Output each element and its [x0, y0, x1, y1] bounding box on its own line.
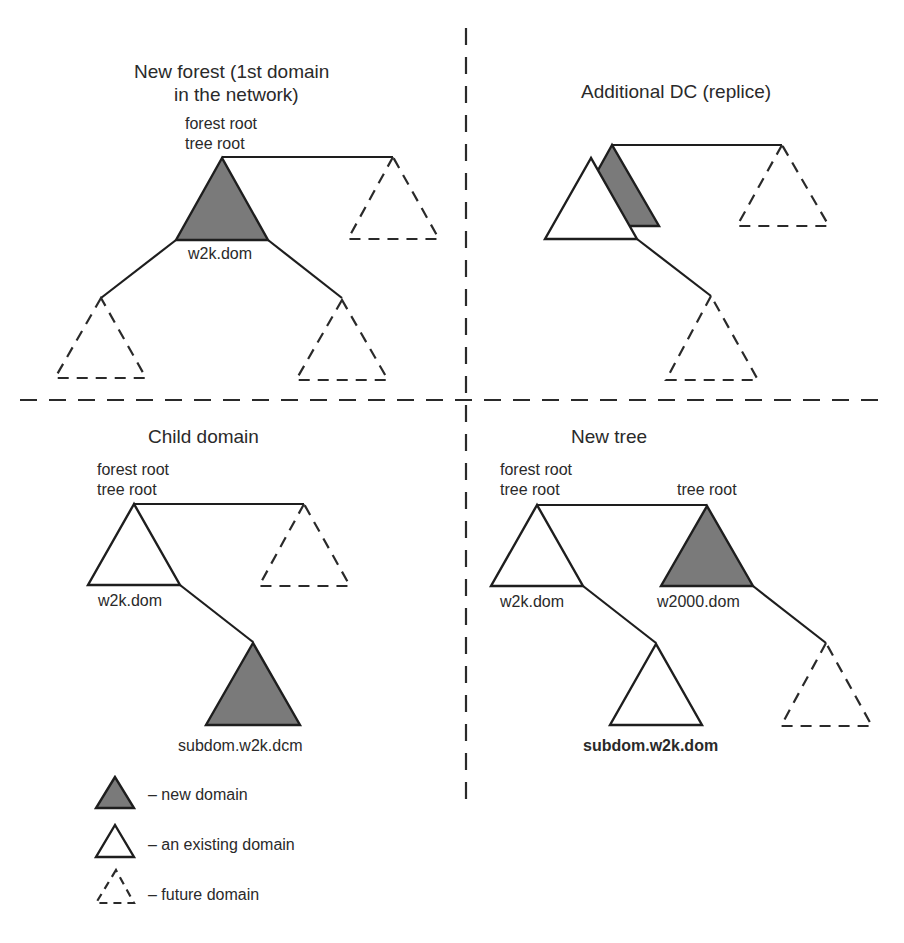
future-domain-triangle [296, 300, 388, 380]
parent-domain-label: w2k.dom [97, 592, 162, 609]
child-domain-label: subdom.w2k.dcm [178, 737, 303, 754]
panel-new-tree: New tree forest root tree root tree root… [491, 426, 872, 754]
panel-title: Additional DC (replice) [581, 81, 771, 102]
outline-triangle-icon [96, 825, 134, 857]
legend-label: – an existing domain [148, 836, 295, 853]
panel-title-line2: in the network) [174, 84, 299, 105]
domain-creation-diagram: New forest (1st domain in the network) f… [0, 0, 904, 943]
future-domain-triangle [781, 643, 872, 726]
link-new-tree-to-child [753, 586, 826, 643]
root-label-forest: forest root [97, 461, 170, 478]
legend-item-future: – future domain [96, 870, 259, 903]
legend: – new domain – an existing domain – futu… [96, 777, 295, 903]
domain-label: w2k.dom [187, 245, 252, 262]
future-domain-triangle [348, 157, 439, 239]
future-domain-triangle [55, 298, 146, 378]
existing-domain-triangle [88, 504, 180, 585]
existing-domain-triangle [491, 505, 583, 586]
panel-title: New tree [571, 426, 647, 447]
panel-title-line1: New forest (1st domain [134, 61, 329, 82]
second-domain-label: w2000.dom [656, 593, 740, 610]
link-root-to-right-child [268, 240, 342, 298]
second-root-label: tree root [677, 481, 737, 498]
root-label-forest: forest root [185, 115, 258, 132]
new-domain-triangle [206, 643, 300, 725]
legend-label: – future domain [148, 886, 259, 903]
future-domain-triangle [737, 145, 829, 226]
future-domain-triangle [259, 504, 350, 586]
root-label-tree: tree root [500, 481, 560, 498]
new-domain-triangle [661, 506, 753, 586]
dashed-triangle-icon [96, 870, 134, 903]
link-root-to-child [637, 239, 711, 296]
legend-item-new: – new domain [96, 777, 248, 808]
legend-item-existing: – an existing domain [96, 825, 295, 857]
root-label-forest: forest root [500, 461, 573, 478]
panel-additional-dc: Additional DC (replice) [545, 81, 829, 380]
link-root-to-left-child [101, 240, 176, 298]
root-label-tree: tree root [97, 481, 157, 498]
future-domain-triangle [666, 296, 758, 380]
child-domain-label: subdom.w2k.dom [583, 737, 718, 754]
existing-domain-triangle [610, 644, 702, 725]
panel-new-forest: New forest (1st domain in the network) f… [55, 61, 439, 380]
panel-title: Child domain [148, 426, 259, 447]
first-domain-label: w2k.dom [499, 593, 564, 610]
link-root-to-child [583, 586, 656, 643]
legend-label: – new domain [148, 786, 248, 803]
panel-child-domain: Child domain forest root tree root w2k.d… [88, 426, 350, 754]
filled-triangle-icon [96, 777, 134, 808]
root-label-tree: tree root [185, 135, 245, 152]
new-domain-triangle [176, 158, 268, 240]
link-parent-to-child [180, 585, 253, 642]
